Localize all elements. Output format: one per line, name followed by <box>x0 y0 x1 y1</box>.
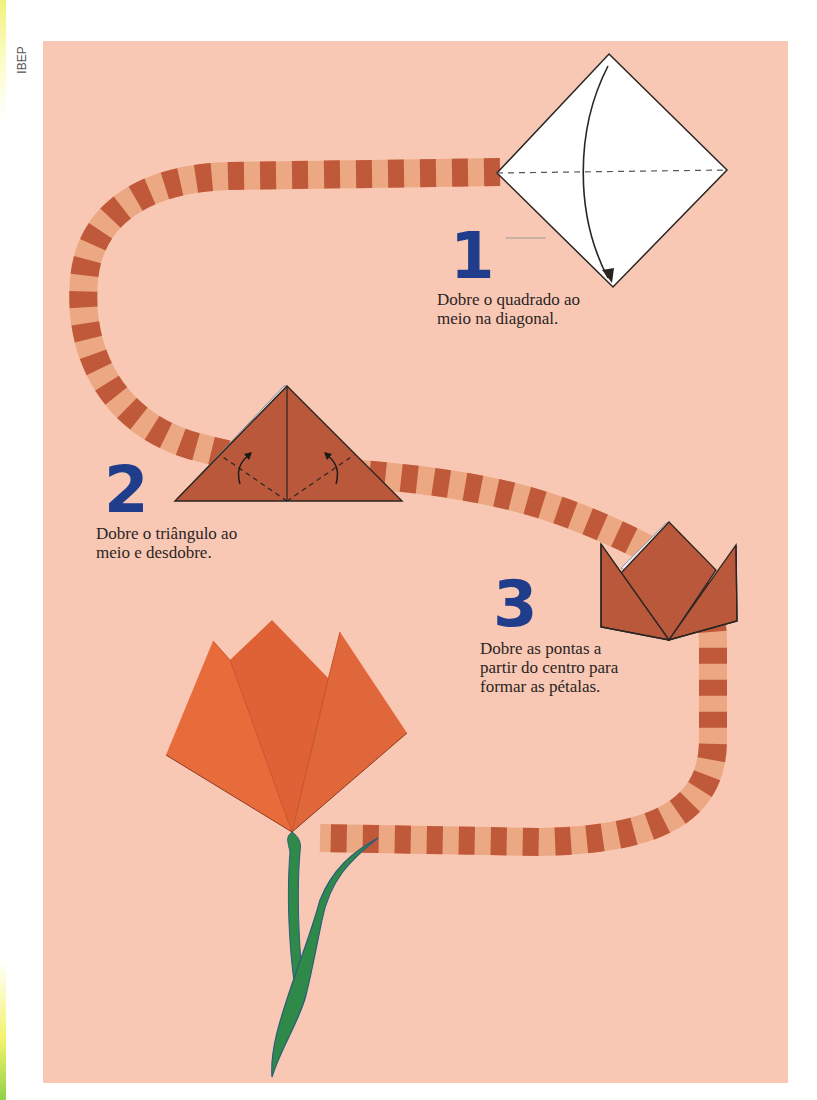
step2-instruction: Dobre o triângulo ao meio e desdobre. <box>96 524 237 562</box>
step3-number: 3 <box>493 572 538 636</box>
step3-instruction: Dobre as pontas a partir do centro para … <box>480 639 618 696</box>
step2-number: 2 <box>104 458 149 522</box>
step1-square-figure <box>497 54 727 287</box>
step1-number: 1 <box>450 224 495 288</box>
step1-instruction: Dobre o quadrado ao meio na diagonal. <box>437 290 580 328</box>
